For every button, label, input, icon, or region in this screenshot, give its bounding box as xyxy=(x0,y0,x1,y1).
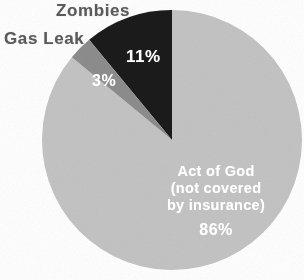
slice-label-gas-leak: Gas Leak xyxy=(4,30,84,47)
slice-label-act-of-god-line2: (not covered xyxy=(150,180,282,197)
slice-label-zombies: Zombies xyxy=(56,2,130,19)
slice-value-act-of-god: 86% xyxy=(150,221,282,239)
pie-chart: Zombies Gas Leak 11% 3% Act of God (not … xyxy=(0,0,304,280)
slice-label-act-of-god: Act of God (not covered by insurance) 86… xyxy=(150,163,282,239)
slice-label-act-of-god-line1: Act of God xyxy=(150,163,282,180)
slice-value-gas-leak: 3% xyxy=(92,73,116,89)
slice-value-zombies: 11% xyxy=(126,48,161,65)
slice-label-act-of-god-line3: by insurance) xyxy=(150,197,282,214)
